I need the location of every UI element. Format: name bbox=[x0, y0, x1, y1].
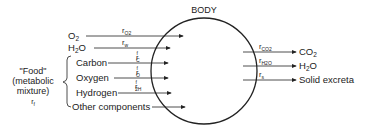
other-components-label: Other components bbox=[72, 101, 150, 112]
h2o-out-label: H2O bbox=[299, 60, 317, 72]
hydrogen-label: Hydrogen bbox=[76, 87, 117, 98]
food-brace bbox=[63, 56, 71, 107]
solid-excreta-label: Solid excreta bbox=[299, 74, 355, 85]
oxygen-label: Oxygen bbox=[76, 72, 109, 83]
oxygen-rate: rfO bbox=[136, 65, 140, 78]
food-label-line1: "Food" bbox=[20, 66, 47, 76]
carbon-rate: rfC bbox=[136, 50, 140, 63]
food-label-line2: (metabolic bbox=[12, 76, 54, 86]
o2-label: O2 bbox=[68, 30, 79, 42]
h2o-in-rate: rw bbox=[122, 38, 129, 48]
carbon-label: Carbon bbox=[76, 57, 107, 68]
h2o-out-rate: rH2O bbox=[259, 56, 272, 66]
output-solid-excreta: rs Solid excreta bbox=[243, 70, 355, 85]
metabolic-body-diagram: BODY O2 rO2 H2O rw "Food" (metabolic mix… bbox=[0, 0, 369, 129]
hydrogen-rate: rf2H bbox=[135, 79, 142, 92]
food-group-label: "Food" (metabolic mixture) rf bbox=[12, 66, 54, 107]
food-label-line3: mixture) bbox=[17, 86, 50, 96]
body-circle bbox=[151, 18, 257, 124]
co2-label: CO2 bbox=[299, 46, 317, 58]
body-title: BODY bbox=[191, 5, 217, 15]
co2-rate: rCO2 bbox=[259, 42, 272, 52]
output-h2o: rH2O H2O bbox=[243, 56, 317, 72]
h2o-label: H2O bbox=[68, 42, 86, 54]
solid-excreta-rate: rs bbox=[259, 70, 265, 80]
food-rate: rf bbox=[31, 98, 35, 107]
o2-rate: rO2 bbox=[122, 26, 131, 36]
